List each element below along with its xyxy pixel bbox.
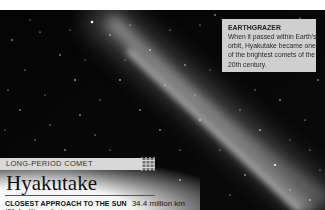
earthgrazer-infobox: EARTHGRAZER When it passed within Earth'… <box>222 19 316 72</box>
grid-decoration-icon <box>138 157 155 171</box>
comet-name-heading: Hyakutake <box>6 172 97 194</box>
heading-divider <box>5 195 155 196</box>
infobox-body: When it passed within Earth's orbit, Hya… <box>228 32 318 69</box>
fact-label: CLOSEST APPROACH TO THE SUN <box>5 200 127 207</box>
comet-category-label: LONG-PERIOD COMET <box>0 158 142 170</box>
infobox-title: EARTHGRAZER <box>228 23 304 32</box>
fact-closest-approach: CLOSEST APPROACH TO THE SUN 34.4 million… <box>5 199 185 208</box>
fact-value: 34.4 million km <box>132 199 185 208</box>
fact-subvalue: (21.4 million miles) <box>5 208 63 210</box>
